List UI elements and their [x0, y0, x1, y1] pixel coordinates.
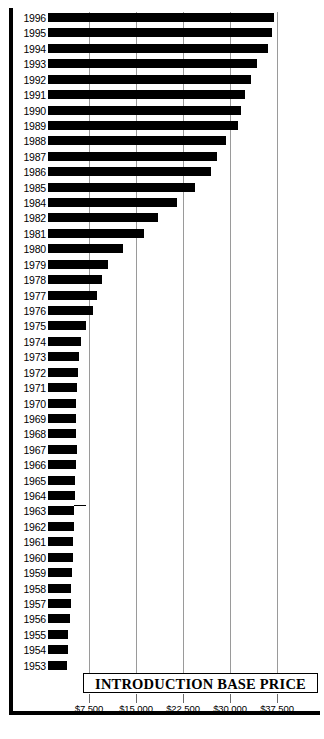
bar — [48, 198, 177, 207]
bar-row-year-label: 1994 — [14, 43, 46, 55]
bar-row: 1957 — [0, 598, 324, 613]
bar-row: 1972 — [0, 367, 324, 382]
bar — [48, 337, 81, 346]
bar-row: 1989 — [0, 120, 324, 135]
bar-row: 1967 — [0, 444, 324, 459]
bar-row-year-label: 1996 — [14, 12, 46, 24]
bar — [48, 321, 86, 330]
bar-row: 1973 — [0, 351, 324, 366]
bar-row-year-label: 1991 — [14, 89, 46, 101]
bar — [48, 152, 217, 161]
bar — [48, 383, 77, 392]
bar-row-year-label: 1968 — [14, 428, 46, 440]
bar-row: 1996 — [0, 12, 324, 27]
bar-row: 1960 — [0, 552, 324, 567]
bar — [48, 213, 158, 222]
bar-row-year-label: 1962 — [14, 521, 46, 533]
bar — [48, 275, 102, 284]
bar — [48, 506, 74, 515]
bar — [48, 260, 108, 269]
bar-row: 1993 — [0, 58, 324, 73]
bar-row: 1963 — [0, 505, 324, 520]
bar-row-year-label: 1961 — [14, 536, 46, 548]
bar-row: 1971 — [0, 382, 324, 397]
bar — [48, 13, 274, 22]
bar-row: 1994 — [0, 43, 324, 58]
bar — [48, 183, 195, 192]
bar — [48, 568, 72, 577]
bar-row-year-label: 1965 — [14, 475, 46, 487]
chart-title: INTRODUCTION BASE PRICE — [84, 676, 317, 693]
bar-row: 1958 — [0, 583, 324, 598]
pointer-annotation-1967 — [74, 505, 86, 506]
bar-row-year-label: 1990 — [14, 105, 46, 117]
bar-row-year-label: 1989 — [14, 120, 46, 132]
bar-row: 1964 — [0, 490, 324, 505]
bar-row: 1978 — [0, 274, 324, 289]
bar — [48, 106, 241, 115]
bar — [48, 445, 77, 454]
bar-row: 1974 — [0, 336, 324, 351]
bar-row-year-label: 1963 — [14, 505, 46, 517]
bar-row-year-label: 1959 — [14, 567, 46, 579]
chart-root: $7,500$15,000$22,500$30,000$37,500 19961… — [0, 0, 324, 739]
bar — [48, 229, 144, 238]
bar — [48, 59, 257, 68]
bar-row: 1990 — [0, 105, 324, 120]
bar-row-year-label: 1995 — [14, 27, 46, 39]
bar-row-year-label: 1975 — [14, 320, 46, 332]
bar-row: 1986 — [0, 166, 324, 181]
bar-row-year-label: 1973 — [14, 351, 46, 363]
bar — [48, 661, 67, 670]
bar-row: 1981 — [0, 228, 324, 243]
bar — [48, 460, 76, 469]
bar — [48, 599, 71, 608]
bar-row: 1959 — [0, 567, 324, 582]
bar — [48, 429, 76, 438]
bar-row-year-label: 1992 — [14, 74, 46, 86]
bar-row-year-label: 1953 — [14, 660, 46, 672]
bar-row: 1982 — [0, 212, 324, 227]
bar — [48, 537, 73, 546]
bar — [48, 291, 97, 300]
bar — [48, 553, 73, 562]
bar-row: 1961 — [0, 536, 324, 551]
bar — [48, 630, 68, 639]
bar — [48, 614, 70, 623]
bar-row: 1965 — [0, 475, 324, 490]
bar — [48, 645, 68, 654]
bar-row-year-label: 1984 — [14, 197, 46, 209]
bar-row-year-label: 1956 — [14, 613, 46, 625]
bar — [48, 414, 76, 423]
bar-row-year-label: 1955 — [14, 629, 46, 641]
bar — [48, 44, 268, 53]
bar-rows: 1996199519941993199219911990198919881987… — [0, 0, 324, 739]
bar-row-year-label: 1969 — [14, 413, 46, 425]
bar — [48, 28, 272, 37]
bar-row: 1970 — [0, 398, 324, 413]
bar-row-year-label: 1985 — [14, 182, 46, 194]
bar-row-year-label: 1980 — [14, 243, 46, 255]
bar-row: 1977 — [0, 290, 324, 305]
bar — [48, 352, 79, 361]
bar-row: 1956 — [0, 613, 324, 628]
bar-row-year-label: 1972 — [14, 367, 46, 379]
bar-row-year-label: 1987 — [14, 151, 46, 163]
bar-row: 1955 — [0, 629, 324, 644]
bar-row: 1969 — [0, 413, 324, 428]
bar — [48, 522, 74, 531]
bar-row-year-label: 1979 — [14, 259, 46, 271]
bar — [48, 244, 123, 253]
bar-row-year-label: 1977 — [14, 290, 46, 302]
bar — [48, 368, 78, 377]
bar-row: 1985 — [0, 182, 324, 197]
bar — [48, 167, 211, 176]
bar — [48, 476, 75, 485]
bar-row: 1995 — [0, 27, 324, 42]
bar-row: 1980 — [0, 243, 324, 258]
bar-row: 1984 — [0, 197, 324, 212]
bar-row-year-label: 1971 — [14, 382, 46, 394]
bar-row-year-label: 1957 — [14, 598, 46, 610]
bar — [48, 306, 93, 315]
bar-row: 1968 — [0, 428, 324, 443]
